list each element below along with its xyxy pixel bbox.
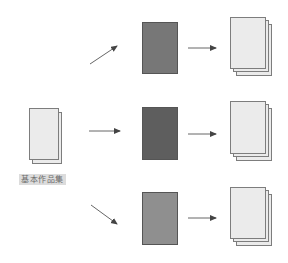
output-sheet bbox=[230, 187, 266, 239]
arrow-to-variant-1 bbox=[90, 46, 117, 64]
output-sheet bbox=[230, 101, 266, 154]
arrow-to-variant-3 bbox=[91, 205, 117, 224]
variant-box-2 bbox=[142, 107, 178, 160]
variant-box-1 bbox=[142, 22, 178, 74]
variant-box-3 bbox=[142, 192, 178, 245]
output-sheet bbox=[230, 17, 266, 69]
